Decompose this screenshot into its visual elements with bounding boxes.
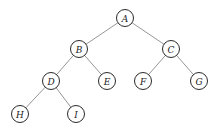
tree-edges — [26, 23, 194, 108]
edge-c-f — [149, 55, 166, 74]
node-label: D — [46, 77, 54, 87]
node-label: C — [168, 45, 175, 55]
tree-node-a: A — [117, 10, 134, 27]
node-label: B — [75, 45, 83, 55]
edge-a-b — [86, 23, 118, 44]
binary-tree-diagram: ABCDEFGHI — [0, 0, 220, 136]
edge-b-d — [57, 55, 74, 74]
edge-a-c — [132, 23, 164, 44]
tree-node-e: E — [99, 73, 116, 90]
edge-d-i — [56, 88, 71, 107]
tree-node-b: B — [71, 41, 88, 58]
edge-c-g — [177, 55, 194, 74]
tree-node-h: H — [12, 106, 29, 123]
node-label: H — [15, 110, 24, 120]
node-label: A — [121, 14, 129, 24]
node-label: F — [139, 77, 147, 87]
node-label: E — [103, 77, 111, 87]
node-label: G — [195, 77, 202, 87]
tree-node-g: G — [191, 73, 208, 90]
tree-node-d: D — [43, 73, 60, 90]
edge-d-h — [26, 87, 45, 108]
tree-node-i: I — [68, 106, 85, 123]
edge-b-e — [85, 55, 102, 74]
tree-node-f: F — [135, 73, 152, 90]
tree-nodes: ABCDEFGHI — [12, 10, 208, 123]
tree-node-c: C — [163, 41, 180, 58]
node-label: I — [73, 110, 78, 120]
